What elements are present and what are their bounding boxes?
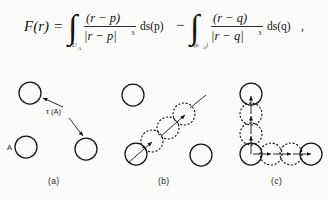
panel-a-circle-left <box>15 136 37 158</box>
panels-area: A τ (A) (a) (b) <box>0 58 328 200</box>
panel-a-label: (a) <box>48 176 60 186</box>
integral-1-subscript-sub: A <box>77 46 82 51</box>
panel-a: A τ (A) (a) <box>7 82 97 186</box>
panel-a-set-label: A <box>7 143 12 152</box>
panel-b-guide-line <box>190 95 206 108</box>
term2-denominator: |r − q| <box>211 29 244 43</box>
panel-b-circle-dashed-2 <box>157 117 179 139</box>
term1-denominator-exponent: 3 <box>131 29 134 36</box>
panel-b-circle-origin <box>125 143 147 165</box>
panel-b-arrow-1 <box>128 142 152 163</box>
panel-b-label: (b) <box>158 176 170 186</box>
panel-a-circle-right <box>75 138 97 160</box>
term2-denominator-exponent: 3 <box>258 29 261 36</box>
term2-numerator: (r − q) <box>213 11 247 25</box>
term2-measure: ds(q) <box>267 20 291 33</box>
formula-lhs: F(r) <box>23 18 49 35</box>
panel-a-circle-top <box>19 82 41 104</box>
formula-trailing-comma: , <box>301 20 304 33</box>
integral-2-subscript-close: ) <box>205 42 208 49</box>
formula-minus: − <box>176 17 184 33</box>
term1-numerator: (r − p) <box>86 11 120 25</box>
panels-svg: A τ (A) (a) (b) <box>0 58 328 200</box>
panel-a-arrow-upper <box>43 98 63 107</box>
term1-measure: ds(p) <box>140 20 164 33</box>
integral-2-subscript: τ(u <box>192 42 199 49</box>
formula-equals: = <box>54 18 62 34</box>
panel-b: (b) <box>122 84 212 186</box>
panel-b-circle-bottomright <box>190 144 212 166</box>
panel-c-label: (c) <box>271 176 282 186</box>
panel-c: (c) <box>240 83 322 186</box>
figure-root: F(r) = ∫ U A (r − p) |r − p| 3 ds(p) − ∫… <box>0 0 328 200</box>
formula-area: F(r) = ∫ U A (r − p) |r − p| 3 ds(p) − ∫… <box>0 0 328 58</box>
panel-b-circle-topleft <box>122 84 144 106</box>
term1-denominator: |r − p| <box>84 29 117 43</box>
panel-b-arrow-2 <box>161 115 185 136</box>
panel-a-map-label: τ (A) <box>46 107 62 116</box>
panel-a-arrow-lower <box>69 118 83 136</box>
formula-svg: F(r) = ∫ U A (r − p) |r − p| 3 ds(p) − ∫… <box>0 0 328 58</box>
